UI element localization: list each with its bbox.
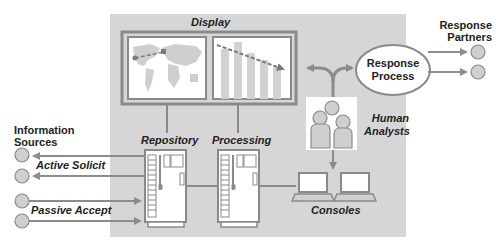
response-partners-label-line1: Response xyxy=(436,19,492,31)
active-solicit-label: Active Solicit xyxy=(36,159,105,171)
repository-server-icon xyxy=(145,150,186,227)
response-partner-node xyxy=(471,45,485,59)
processing-server-icon xyxy=(218,150,259,227)
display-monitors xyxy=(122,32,296,104)
information-sources-label-line1: Information xyxy=(14,124,75,136)
response-partners-label-line2: Partners xyxy=(436,31,492,43)
response-process-label-line1: Response xyxy=(366,57,420,69)
human-analysts-icon xyxy=(306,97,357,150)
processing-label: Processing xyxy=(212,134,271,146)
human-analysts-label-line1: Human xyxy=(369,112,409,124)
information-source-nodes xyxy=(15,148,29,228)
human-analysts-label-line2: Analysts xyxy=(364,125,410,137)
response-partner-node xyxy=(471,65,485,79)
display-label: Display xyxy=(191,16,230,28)
response-process-label-line2: Process xyxy=(366,70,420,82)
consoles-laptops-icon xyxy=(292,173,376,201)
passive-accept-label: Passive Accept xyxy=(31,204,111,216)
repository-label: Repository xyxy=(141,134,198,146)
consoles-label: Consoles xyxy=(311,204,361,216)
information-sources-label-line2: Sources xyxy=(14,136,57,148)
